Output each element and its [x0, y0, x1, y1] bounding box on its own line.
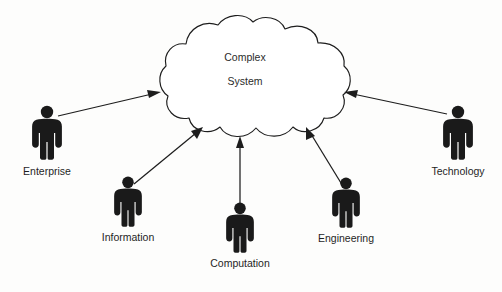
arrow-computation-to-system: [236, 136, 244, 206]
cloud-label-line2: System: [227, 75, 262, 87]
node-label-computation: Computation: [210, 257, 270, 269]
complex-system-diagram: Complex System Ente: [0, 0, 502, 292]
person-icon: [443, 106, 473, 160]
person-icon: [332, 178, 360, 228]
arrow-information-to-system: [134, 127, 203, 184]
person-icon: [226, 203, 254, 253]
arrow-line: [311, 134, 341, 183]
cloud-label-line1: Complex: [224, 51, 266, 63]
node-label-information: Information: [102, 231, 155, 243]
arrow-line: [58, 94, 152, 116]
complex-system-cloud: Complex System: [160, 16, 350, 137]
node-enterprise[interactable]: Enterprise: [23, 106, 71, 177]
diagram-canvas: Complex System Ente: [0, 0, 502, 292]
node-label-engineering: Engineering: [318, 232, 374, 244]
node-label-technology: Technology: [431, 165, 485, 177]
arrow-enterprise-to-system: [58, 90, 161, 116]
node-label-enterprise: Enterprise: [23, 165, 71, 177]
arrow-technology-to-system: [344, 90, 447, 114]
node-engineering[interactable]: Engineering: [318, 178, 374, 244]
node-information[interactable]: Information: [102, 177, 155, 243]
arrow-line: [134, 133, 196, 184]
person-icon: [114, 177, 142, 227]
node-technology[interactable]: Technology: [431, 106, 485, 177]
arrow-line: [353, 94, 447, 114]
person-icon: [32, 106, 62, 160]
arrow-head-icon: [236, 136, 244, 148]
arrow-engineering-to-system: [306, 127, 341, 183]
arrow-head-icon: [147, 90, 161, 98]
node-computation[interactable]: Computation: [210, 203, 270, 269]
